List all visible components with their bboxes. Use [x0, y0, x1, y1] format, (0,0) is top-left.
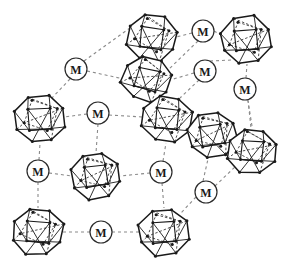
cluster-vertex-dot [179, 220, 182, 223]
cluster-vertex-dot [228, 43, 231, 46]
cluster-vertex-dot [31, 211, 34, 214]
cluster-vertex-dot [154, 255, 157, 258]
cluster-vertex-dot [148, 119, 151, 122]
cluster-vertex-dot [195, 139, 198, 142]
cluster-vertex-dot [258, 171, 261, 174]
cluster-vertex-dot [138, 66, 141, 69]
cluster-vertex-dot [48, 209, 51, 212]
metal-linker-4[interactable]: M [234, 78, 256, 100]
cluster-vertex-dot [26, 108, 29, 111]
cluster-vertex-dot [62, 222, 65, 225]
cluster-vertex-dot [188, 238, 191, 241]
cluster-vertex-dot [26, 219, 29, 222]
cluster-vertex-dot [116, 162, 119, 165]
cluster-vertex-dot [140, 241, 143, 244]
cluster-vertex-dot [275, 143, 278, 146]
cluster-vertex-dot [176, 31, 179, 34]
cluster-vertex-dot [172, 220, 175, 223]
cluster-vertex-dot [239, 158, 242, 161]
linker-label: M [95, 226, 106, 240]
cluster-vertex-dot [163, 15, 166, 18]
cluster-vertex-dot [48, 94, 51, 97]
cluster-vertex-dot [46, 129, 49, 132]
cluster-vertex-dot [151, 221, 154, 224]
cluster-vertex-dot [19, 232, 22, 235]
cluster-vertex-dot [229, 139, 232, 142]
cluster-vertex-dot [31, 140, 34, 143]
cluster-vertex-dot [13, 220, 16, 223]
cluster-vertex-dot [201, 145, 204, 148]
cluster-vertex-dot [47, 242, 50, 245]
cluster-vertex-dot [159, 94, 162, 97]
cluster-vertex-dot [173, 140, 176, 143]
cluster-vertex-dot [154, 138, 157, 141]
cluster-vertex-dot [260, 28, 263, 31]
cluster-vertex-dot [129, 25, 132, 28]
cluster-vertex-dot [243, 128, 246, 131]
cluster-vertex-dot [129, 76, 132, 79]
metal-linker-6[interactable]: M [27, 160, 49, 182]
metal-linker-9[interactable]: M [90, 221, 112, 243]
cluster-framework-diagram: MMMMMMMMM [0, 0, 290, 270]
cluster-vertex-dot [262, 130, 265, 133]
cluster-vertex-dot [184, 110, 187, 113]
cluster-vertex-dot [138, 45, 141, 48]
cluster-vertex-dot [132, 95, 135, 98]
metal-linker-2[interactable]: M [192, 20, 214, 42]
linker-label: M [199, 65, 210, 79]
cluster-vertex-dot [232, 122, 235, 125]
cluster-vertex-dot [107, 182, 110, 185]
cluster-vertex-dot [185, 219, 188, 222]
cluster-vertex-dot [48, 221, 51, 224]
cluster-vertex-dot [28, 129, 31, 132]
cluster-vertex-dot [167, 29, 170, 32]
cluster-vertex-dot [191, 145, 194, 148]
cluster-vertex-dot [56, 107, 59, 110]
cluster-vertex-dot [110, 163, 113, 166]
cluster-vertex-dot [191, 111, 194, 114]
cluster-vertex-dot [219, 32, 222, 35]
cluster-vertex-dot [219, 123, 222, 126]
linker-label: M [200, 186, 211, 200]
cluster-vertex-dot [15, 128, 18, 131]
cluster-vertex-dot [267, 28, 270, 31]
cluster-vertex-dot [158, 70, 161, 73]
metal-linker-7[interactable]: M [150, 161, 172, 183]
cluster-vertex-dot [268, 142, 271, 145]
cluster-vertex-dot [148, 90, 151, 93]
cluster-vertex-dot [85, 186, 88, 189]
cluster-vertex-dot [49, 107, 52, 110]
cluster-vertex-dot [151, 210, 154, 213]
figure-root: MMMMMMMMM [0, 0, 290, 270]
metal-linker-5[interactable]: M [87, 102, 109, 124]
cluster-vertex-dot [30, 99, 33, 102]
cluster-vertex-dot [79, 179, 82, 182]
cluster-vertex-dot [175, 128, 178, 131]
metal-linker-1[interactable]: M [65, 58, 87, 80]
cluster-vertex-dot [255, 161, 258, 164]
cluster-vertex-dot [246, 130, 249, 133]
cluster-vertex-dot [236, 21, 239, 24]
cluster-vertex-dot [235, 151, 238, 154]
cluster-vertex-dot [174, 252, 177, 255]
cluster-vertex-dot [219, 145, 222, 148]
metal-linker-3[interactable]: M [194, 60, 216, 82]
cluster-vertex-dot [232, 17, 235, 20]
cluster-vertex-dot [63, 125, 66, 128]
cluster-vertex-dot [235, 49, 238, 52]
cluster-vertex-dot [171, 243, 174, 246]
cluster-vertex-dot [81, 155, 84, 158]
linker-label: M [239, 83, 250, 97]
cluster-vertex-dot [61, 107, 64, 110]
cluster-vertex-dot [216, 111, 219, 114]
cluster-vertex-dot [237, 62, 240, 65]
cluster-vertex-dot [50, 138, 53, 141]
cluster-vertex-dot [100, 152, 103, 155]
cluster-vertex-dot [197, 114, 200, 117]
cluster-vertex-dot [27, 96, 30, 99]
metal-linker-8[interactable]: M [195, 181, 217, 203]
cluster-vertex-dot [137, 224, 140, 227]
cluster-vertex-dot [25, 239, 28, 242]
cluster-vertex-dot [160, 60, 163, 63]
cluster-vertex-dot [223, 141, 226, 144]
